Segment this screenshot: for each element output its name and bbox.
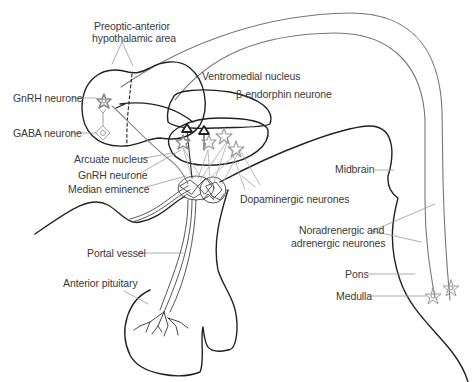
label-preoptic-line1: Preoptic-anterior [94,20,170,32]
label-dopaminergic-neurones: Dopaminergic neurones [240,193,349,205]
gaba-neurone-icon [96,110,110,140]
label-arcuate-nucleus: Arcuate nucleus [74,153,148,165]
arcuate-nucleus-shape [169,118,269,165]
label-noradrenergic-line1: Noradrenergic and [299,224,384,236]
label-anterior-pituitary: Anterior pituitary [63,277,138,289]
label-median-eminence: Median eminence [68,183,149,195]
label-noradrenergic-line2: adrenergic neurones [291,237,385,249]
label-preoptic-line2: hypothalamic area [92,32,176,44]
pituitary-capillaries [134,312,188,336]
label-pons: Pons [345,268,369,280]
noradrenergic-neurone-icon-1 [425,288,441,304]
label-gnrh-neurone-preoptic: GnRH neurone [13,92,82,104]
label-midbrain: Midbrain [335,163,374,175]
label-medulla: Medulla [336,290,372,302]
label-ventromedial-nucleus: Ventromedial nucleus [202,70,300,82]
label-portal-vessel: Portal vessel [87,247,146,259]
dopaminergic-neurone-icon-2 [228,141,244,157]
stalk-right-edge [216,190,237,350]
label-gaba-neurone: GABA neurone [13,127,82,139]
beta-endorphin-neurone-icon [182,124,209,134]
dopaminergic-neurone-icon-1 [216,128,232,144]
label-beta-endorphin-neurone: β-endorphin neurone [236,88,332,100]
anterior-pituitary-shape [125,290,228,376]
hypothalamus-floor [35,196,185,234]
label-gnrh-neurone-arcuate: GnRH neurone [78,169,147,181]
median-eminence-plexus [178,176,226,203]
preoptic-divider-dashed [127,74,132,146]
gnrh-neurone-preoptic-icon [97,94,111,108]
noradrenergic-neurone-icon-2 [443,280,459,296]
